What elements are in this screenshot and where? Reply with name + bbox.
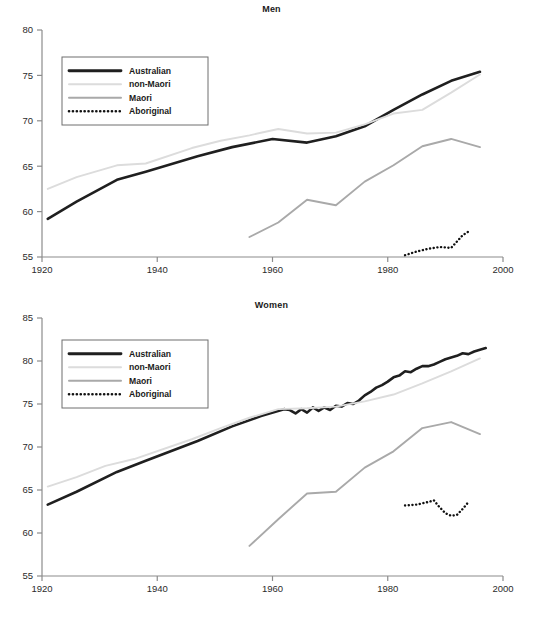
- legend-label-australian: Australian: [129, 349, 171, 359]
- y-tick-label: 80: [22, 24, 33, 35]
- legend-label-australian: Australian: [129, 66, 171, 76]
- y-tick-label: 70: [22, 115, 33, 126]
- y-tick-label: 80: [22, 355, 33, 366]
- life-expectancy-figure: Men 55606570758019201940196019802000Aust…: [0, 0, 543, 617]
- x-tick-label: 1920: [31, 583, 52, 594]
- series-line-maori: [249, 139, 480, 237]
- y-tick-label: 75: [22, 398, 33, 409]
- line-chart-women: 5560657075808519201940196019802000Austra…: [0, 296, 543, 617]
- legend-label-maori: Maori: [129, 376, 152, 386]
- y-tick-label: 65: [22, 484, 33, 495]
- y-tick-label: 60: [22, 206, 33, 217]
- chart-panel-men: Men 55606570758019201940196019802000Aust…: [0, 0, 543, 296]
- line-chart-men: 55606570758019201940196019802000Australi…: [0, 0, 543, 296]
- legend-label-non-maori: non-Maori: [129, 362, 171, 372]
- legend-label-non-maori: non-Maori: [129, 79, 171, 89]
- y-tick-label: 65: [22, 161, 33, 172]
- x-tick-label: 2000: [492, 264, 513, 275]
- legend-label-aboriginal: Aboriginal: [129, 389, 172, 399]
- y-tick-label: 75: [22, 70, 33, 81]
- x-tick-label: 1920: [31, 264, 52, 275]
- legend-label-aboriginal: Aboriginal: [129, 106, 172, 116]
- y-tick-label: 55: [22, 251, 33, 262]
- y-tick-label: 85: [22, 312, 33, 323]
- y-tick-label: 60: [22, 527, 33, 538]
- x-tick-label: 1940: [147, 264, 168, 275]
- series-line-maori: [249, 422, 480, 546]
- y-tick-label: 70: [22, 441, 33, 452]
- x-tick-label: 1960: [262, 583, 283, 594]
- series-line-aboriginal: [405, 232, 468, 256]
- x-tick-label: 1960: [262, 264, 283, 275]
- x-tick-label: 2000: [492, 583, 513, 594]
- x-tick-label: 1980: [377, 264, 398, 275]
- x-tick-label: 1940: [147, 583, 168, 594]
- y-tick-label: 55: [22, 570, 33, 581]
- legend-label-maori: Maori: [129, 93, 152, 103]
- x-tick-label: 1980: [377, 583, 398, 594]
- series-line-aboriginal: [405, 500, 468, 515]
- chart-panel-women: Women 5560657075808519201940196019802000…: [0, 296, 543, 617]
